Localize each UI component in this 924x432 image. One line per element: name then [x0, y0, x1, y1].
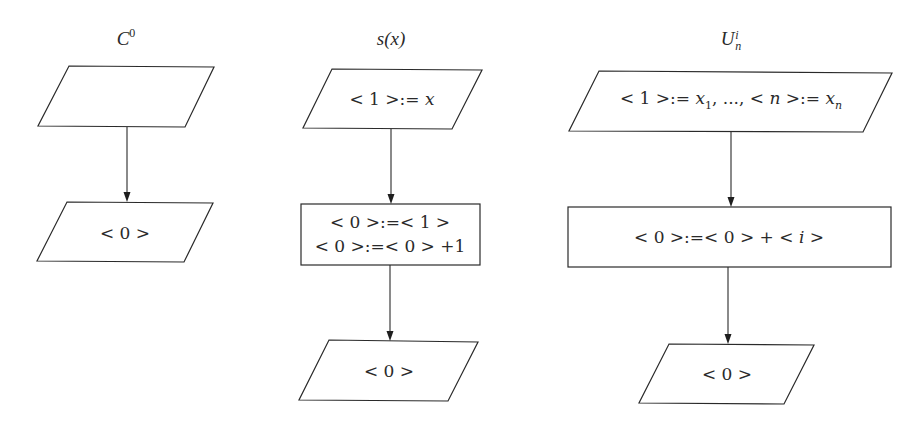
c0-title-base: C — [117, 28, 130, 49]
u-process-prefix: < 0 >:=< 0 > + < — [634, 227, 799, 247]
s-process-label: < 0 >:=< 1 > < 0 >:=< 0 > +1 — [315, 210, 466, 258]
u-title-base: U — [721, 28, 735, 49]
u-input-label: < 1 >:= x1, ..., < n >:= xn — [620, 86, 842, 117]
s-title-text: s(x) — [377, 28, 405, 49]
s-output-label: < 0 > — [364, 359, 414, 383]
diagram-canvas: C0 s(x) Uin < 0 > < 1 >:= x < 0 >:=< 1 >… — [0, 0, 924, 432]
c0-input-parallelogram — [38, 66, 214, 127]
u-input-subn: n — [835, 99, 842, 112]
s-title: s(x) — [377, 28, 405, 50]
s-input-label: < 1 >:= x — [349, 87, 434, 111]
u-title: Uin — [721, 28, 742, 52]
arrowhead-icon — [388, 194, 395, 204]
s-input-prefix: < 1 >:= — [349, 89, 425, 109]
u-title-sub: n — [735, 41, 741, 52]
u-input-mid: , ..., < — [712, 88, 769, 108]
arrowhead-icon — [728, 197, 735, 207]
u-process-label: < 0 >:=< 0 > + < i > — [634, 225, 824, 249]
c0-output-label: < 0 > — [100, 221, 150, 245]
u-input-n: n — [769, 88, 780, 108]
u-title-indices: in — [735, 30, 741, 52]
u-output-text: < 0 > — [702, 364, 752, 384]
c0-title-sup: 0 — [129, 26, 135, 40]
u-input-x1: x — [695, 88, 705, 108]
u-input-part-a: < 1 >:= — [620, 88, 696, 108]
u-input-xn: x — [825, 88, 835, 108]
s-process-line2: < 0 >:=< 0 > +1 — [315, 234, 466, 258]
arrowhead-icon — [387, 331, 394, 341]
u-output-label: < 0 > — [702, 362, 752, 386]
arrowhead-icon — [124, 192, 131, 202]
s-output-text: < 0 > — [364, 361, 414, 381]
s-input-var: x — [425, 89, 435, 109]
u-process-suffix: > — [804, 227, 824, 247]
c0-title: C0 — [117, 26, 136, 49]
s-process-line1: < 0 >:=< 1 > — [315, 210, 466, 234]
u-input-part-b: >:= — [780, 88, 825, 108]
arrowhead-icon — [725, 334, 732, 344]
c0-output-text: < 0 > — [100, 223, 150, 243]
